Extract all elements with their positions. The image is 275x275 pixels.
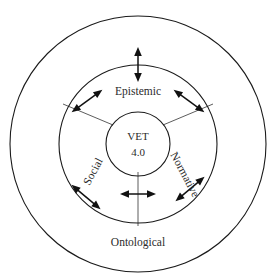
arrow-upper-left xyxy=(69,87,104,115)
arrow-lower-left xyxy=(69,182,103,212)
connector-upper-left xyxy=(63,104,113,125)
inner-ring-vet xyxy=(106,112,170,176)
arrow-upper-left-head-in xyxy=(69,104,81,115)
arrow-upper-right xyxy=(171,87,206,115)
arrow-bottom-center-head-right xyxy=(147,190,156,197)
arrow-upper-right-head-in xyxy=(171,87,183,98)
concentric-circles-diagram: VET 4.0 Epistemic Social Normative Ontol… xyxy=(0,0,275,275)
arrow-top-head-down xyxy=(134,73,142,82)
label-social: Social xyxy=(81,156,105,187)
label-ontological: Ontological xyxy=(111,236,165,249)
arrow-top-head-up xyxy=(134,47,142,56)
radial-connector-lines xyxy=(63,104,213,226)
center-label-line2: 4.0 xyxy=(131,146,145,158)
diagram-canvas: VET 4.0 Epistemic Social Normative Ontol… xyxy=(0,0,275,275)
center-label-line1: VET xyxy=(127,130,149,142)
connector-upper-right xyxy=(163,104,213,125)
label-normative: Normative xyxy=(168,150,202,199)
arrow-bottom-center-head-left xyxy=(120,190,129,197)
label-epistemic: Epistemic xyxy=(115,85,161,98)
arrow-upper-right-head-out xyxy=(195,104,207,115)
arrow-upper-left-head-out xyxy=(93,87,105,98)
